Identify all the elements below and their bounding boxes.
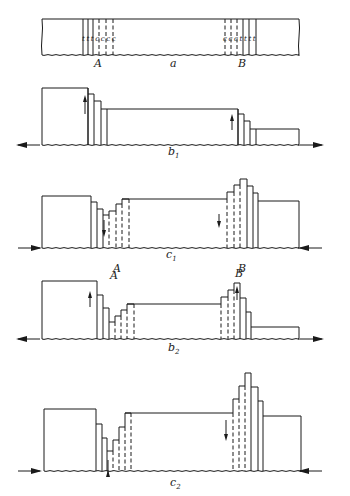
fault-zone-a-profile bbox=[96, 409, 131, 451]
point-label-A: A bbox=[93, 57, 102, 70]
panel-c2: c2 bbox=[18, 373, 322, 491]
panel-label-b2: b2 bbox=[168, 341, 180, 356]
load-arrow-left bbox=[16, 142, 40, 148]
right-block bbox=[251, 327, 299, 339]
load-arrow-right bbox=[300, 336, 324, 342]
left-block bbox=[42, 88, 88, 145]
slip-arrow-up bbox=[235, 286, 239, 300]
panel-a: tttcccccccttttABa bbox=[42, 19, 300, 70]
left-block bbox=[42, 281, 97, 339]
right-block bbox=[263, 416, 301, 471]
point-label-B: B bbox=[234, 267, 243, 280]
panel-label-a: a bbox=[170, 57, 177, 70]
slip-arrow-up bbox=[83, 95, 87, 114]
left-block bbox=[42, 196, 91, 248]
left-block bbox=[44, 409, 96, 471]
panel-c1: ABc1 bbox=[18, 179, 322, 275]
point-label-A: A bbox=[109, 269, 118, 282]
slip-arrow-up bbox=[230, 114, 234, 130]
right-block bbox=[258, 201, 299, 248]
panel-label-b1: b1 bbox=[168, 145, 180, 160]
load-arrow-right-in bbox=[18, 245, 42, 251]
right-block bbox=[256, 129, 299, 145]
panel-label-c2: c2 bbox=[170, 476, 181, 491]
load-arrow-right bbox=[300, 142, 324, 148]
point-label-B: B bbox=[237, 57, 246, 70]
load-arrow-right-in bbox=[18, 468, 42, 474]
slip-arrow-down bbox=[217, 214, 221, 228]
panel-label-c1: c1 bbox=[166, 248, 177, 263]
zone-letters-b: ccctttt bbox=[223, 35, 257, 43]
slip-arrow-down bbox=[224, 420, 228, 441]
zone-letters-a: tttcccc bbox=[82, 35, 117, 43]
fault-evolution-diagram: tttcccccccttttABab1ABc1b2c2AB bbox=[0, 0, 350, 496]
panel-b1: b1 bbox=[16, 88, 324, 160]
load-arrow-left-in bbox=[298, 245, 322, 251]
load-arrow-left-in bbox=[298, 468, 322, 474]
slip-arrow-up bbox=[88, 291, 92, 307]
panel-b2: b2 bbox=[16, 281, 324, 356]
load-arrow-left bbox=[16, 336, 40, 342]
